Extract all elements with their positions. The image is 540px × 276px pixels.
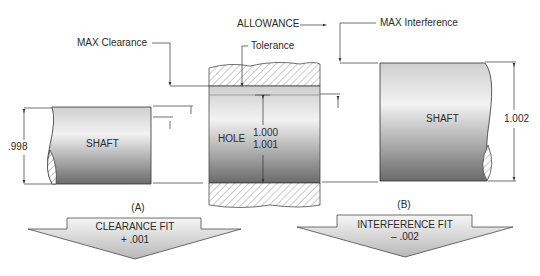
shaft-a-dimension: .998 — [8, 142, 27, 152]
hole-dim-max: 1.001 — [253, 140, 278, 150]
allowance-label: ALLOWANCE — [237, 19, 299, 29]
hole-label: HOLE — [218, 134, 245, 144]
shaft-b-label: SHAFT — [426, 114, 459, 124]
hole-dim-min: 1.000 — [253, 128, 278, 138]
clearance-fit-title: CLEARANCE FIT — [80, 222, 190, 232]
tolerance-label: Tolerance — [251, 41, 294, 51]
shaft-b-dimension: 1.002 — [504, 114, 529, 124]
max-interference-label: MAX Interference — [380, 18, 458, 28]
shaft-a-label: SHAFT — [86, 139, 119, 149]
caption-b: (B) — [384, 200, 424, 210]
clearance-fit-value: + .001 — [110, 235, 160, 245]
interference-fit-value: – .002 — [380, 232, 430, 242]
caption-a: (A) — [118, 203, 158, 213]
max-clearance-label: MAX Clearance — [77, 38, 147, 48]
interference-fit-title: INTERFERENCE FIT — [340, 220, 470, 230]
